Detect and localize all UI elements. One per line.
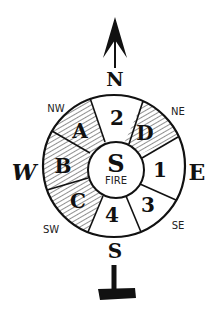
nw-label: NW [47, 103, 64, 114]
se-label: SE [172, 220, 185, 231]
segment-label-d: D [136, 121, 153, 145]
segment-label-4: 4 [105, 203, 119, 227]
south-label: S [108, 239, 122, 263]
center-letter: S [107, 149, 124, 178]
segment-label-2: 2 [110, 106, 124, 130]
center-label: FIRE [105, 175, 127, 186]
west-label: W [12, 159, 39, 185]
segment-label-3: 3 [141, 193, 155, 217]
segment-label-c: C [70, 189, 86, 213]
sw-label: SW [43, 224, 59, 235]
segment-label-b: B [55, 154, 72, 178]
south-marker-icon [98, 265, 136, 300]
segment-label-a: A [71, 119, 88, 143]
ne-label: NE [171, 106, 185, 117]
segment-label-1: 1 [153, 158, 167, 182]
north-arrow-icon [103, 17, 127, 68]
compass-diagram: N 2 D 1 3 4 C B A S FIRE [0, 0, 218, 320]
north-label: N [106, 68, 123, 90]
east-label: E [189, 159, 206, 185]
